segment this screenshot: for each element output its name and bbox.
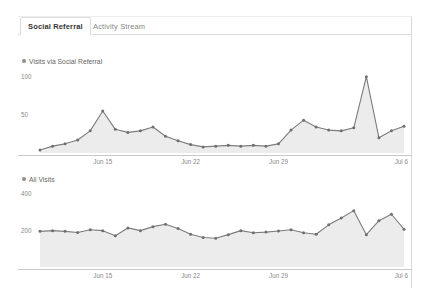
chart1-x-axis: Jun 15 Jun 22 Jun 29 Jul 6 bbox=[18, 155, 412, 170]
chart-visits-via-social-referral: Visits via Social Referral 100 50 Jun 15… bbox=[18, 57, 412, 175]
chart2-svg bbox=[18, 187, 412, 267]
chart2-ytick-400: 400 bbox=[21, 190, 32, 197]
analytics-panel: Social Referral Activity Stream Visits v… bbox=[18, 16, 412, 288]
chart-all-visits: All Visits 400 200 Jun 15 Jun 22 Jun 29 … bbox=[18, 175, 412, 287]
chart1-xtick-0: Jun 15 bbox=[93, 158, 112, 165]
chart1-legend: Visits via Social Referral bbox=[22, 57, 102, 67]
legend-marker-icon bbox=[22, 59, 26, 63]
chart1-ytick-100: 100 bbox=[21, 73, 32, 80]
chart2-xtick-2: Jun 29 bbox=[269, 272, 288, 279]
tab-social-referral[interactable]: Social Referral bbox=[20, 17, 91, 35]
chart1-xtick-2: Jun 29 bbox=[269, 158, 288, 165]
chart1-xtick-3: Jul 6 bbox=[395, 158, 408, 165]
tab-bar: Social Referral Activity Stream bbox=[18, 17, 412, 35]
chart2-xtick-3: Jul 6 bbox=[395, 272, 408, 279]
chart1-xtick-1: Jun 22 bbox=[181, 158, 200, 165]
chart2-xtick-1: Jun 22 bbox=[181, 272, 200, 279]
tab-social-referral-label: Social Referral bbox=[28, 22, 83, 31]
legend-marker-icon bbox=[22, 177, 26, 181]
chart1-legend-label: Visits via Social Referral bbox=[29, 58, 102, 65]
chart1-plot-area: 100 50 bbox=[18, 69, 412, 153]
chart2-x-axis: Jun 15 Jun 22 Jun 29 Jul 6 bbox=[18, 269, 412, 284]
chart1-svg bbox=[18, 69, 412, 153]
chart1-ytick-50: 50 bbox=[21, 111, 28, 118]
tab-activity-stream-label: Activity Stream bbox=[93, 22, 145, 31]
tab-activity-stream[interactable]: Activity Stream bbox=[85, 17, 153, 35]
chart2-plot-area: 400 200 bbox=[18, 187, 412, 267]
chart2-legend: All Visits bbox=[22, 175, 55, 185]
chart2-legend-label: All Visits bbox=[29, 176, 55, 183]
chart2-xtick-0: Jun 15 bbox=[93, 272, 112, 279]
chart2-ytick-200: 200 bbox=[21, 227, 32, 234]
